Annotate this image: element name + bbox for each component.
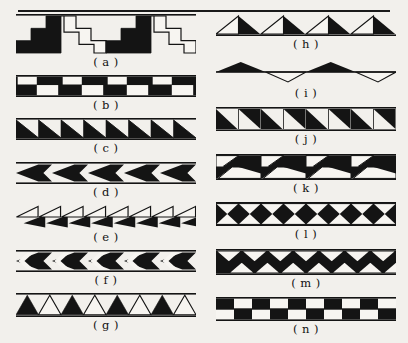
pattern-caption-b: ( b )	[16, 97, 196, 119]
pattern-columns: ( a )( b )( c )( d )( e )( f )( g ) ( h …	[0, 14, 408, 340]
pattern-caption-f: ( f )	[16, 272, 196, 294]
pattern-entry-j: ( j )	[216, 107, 396, 154]
pattern-entry-a: ( a )	[16, 14, 196, 75]
top-rule	[18, 10, 390, 12]
pattern-band-g	[16, 293, 196, 317]
pattern-caption-k: ( k )	[216, 180, 396, 203]
pattern-caption-m: ( m )	[216, 275, 396, 298]
pattern-entry-h: ( h )	[216, 14, 396, 59]
pattern-band-f	[16, 250, 196, 272]
pattern-band-j	[216, 107, 396, 131]
pattern-band-d	[16, 162, 196, 184]
pattern-band-e	[16, 205, 196, 229]
pattern-caption-g: ( g )	[16, 317, 196, 338]
pattern-caption-c: ( c )	[16, 140, 196, 162]
pattern-caption-a: ( a )	[16, 54, 196, 75]
left-column: ( a )( b )( c )( d )( e )( f )( g )	[0, 14, 204, 340]
figure-plate: ( a )( b )( c )( d )( e )( f )( g ) ( h …	[0, 0, 408, 343]
pattern-band-l	[216, 202, 396, 226]
pattern-entry-g: ( g )	[16, 293, 196, 338]
pattern-entry-k: ( k )	[216, 154, 396, 203]
pattern-band-a	[16, 14, 196, 54]
pattern-entry-b: ( b )	[16, 75, 196, 119]
pattern-band-b	[16, 75, 196, 97]
pattern-band-c	[16, 118, 196, 140]
pattern-caption-d: ( d )	[16, 184, 196, 206]
pattern-entry-n: ( n )	[216, 297, 396, 343]
pattern-caption-j: ( j )	[216, 131, 396, 154]
pattern-band-m	[216, 249, 396, 275]
pattern-entry-c: ( c )	[16, 118, 196, 162]
right-column: ( h )( i )( j )( k )( l )( m )( n )	[204, 14, 408, 340]
pattern-entry-e: ( e )	[16, 205, 196, 250]
pattern-entry-i: ( i )	[216, 59, 396, 108]
pattern-band-h	[216, 14, 396, 36]
pattern-band-k	[216, 154, 396, 180]
pattern-band-i	[216, 59, 396, 85]
pattern-band-n	[216, 297, 396, 321]
pattern-entry-f: ( f )	[16, 250, 196, 294]
pattern-entry-m: ( m )	[216, 249, 396, 298]
pattern-caption-i: ( i )	[216, 85, 396, 108]
pattern-entry-l: ( l )	[216, 202, 396, 249]
pattern-entry-d: ( d )	[16, 162, 196, 206]
pattern-caption-e: ( e )	[16, 229, 196, 250]
pattern-caption-l: ( l )	[216, 226, 396, 249]
pattern-caption-n: ( n )	[216, 321, 396, 343]
pattern-caption-h: ( h )	[216, 36, 396, 59]
